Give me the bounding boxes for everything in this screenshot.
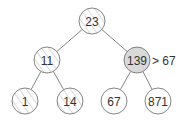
node-label: 871	[148, 95, 168, 109]
tree-node-67: 67	[101, 88, 127, 114]
node-label: 67	[107, 95, 121, 109]
tree-nodes: 231113911467871	[12, 8, 171, 114]
edge-11-1	[31, 71, 41, 89]
tree-node-14: 14	[57, 88, 83, 114]
node-label: 11	[41, 54, 54, 68]
node-label: 14	[63, 95, 77, 109]
edge-23-11	[57, 30, 82, 52]
tree-node-1: 1	[12, 88, 38, 114]
node-label: 1	[22, 95, 29, 109]
node-label: 139	[127, 54, 147, 68]
edge-139-67	[120, 71, 130, 89]
binary-tree-diagram: 231113911467871 > 67	[0, 0, 184, 122]
edge-11-14	[53, 71, 63, 89]
edge-139-871	[143, 72, 152, 90]
tree-node-23: 23	[79, 8, 105, 34]
tree-node-871: 871	[145, 88, 171, 114]
node-label: 23	[85, 15, 99, 29]
edge-23-139	[102, 30, 127, 52]
comparison-annotation: > 67	[152, 54, 176, 68]
tree-node-139: 139	[124, 47, 150, 73]
tree-node-11: 11	[34, 47, 60, 73]
